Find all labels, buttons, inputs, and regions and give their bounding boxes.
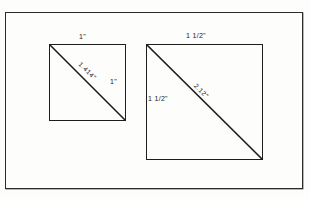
large-square-left-label: 1 1/2" [148,95,168,102]
large-square-diagonal-icon [147,45,262,159]
small-square-top-label: 1" [79,33,86,40]
large-square [146,44,263,160]
small-square-right-label: 1" [110,78,117,85]
figure-canvas: 1" 1" 1.414" 1 1/2" 1 1/2" 2.12" [0,0,310,199]
large-square-top-label: 1 1/2" [186,32,206,39]
